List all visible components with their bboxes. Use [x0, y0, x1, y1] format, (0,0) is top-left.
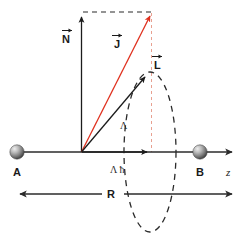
- vector-n-label-group: N: [62, 29, 72, 45]
- vector-diagram-figure: N J L Λ Λ ħ A B z R: [0, 0, 242, 243]
- vector-j-overarrow-head: [119, 34, 123, 38]
- atom-b-sphere: [193, 145, 207, 159]
- vector-j-label-group: J: [112, 34, 122, 50]
- atom-a-label: A: [13, 166, 21, 178]
- vector-n-overarrow-head: [69, 29, 73, 33]
- atom-b-label: B: [196, 166, 204, 178]
- vector-l-label-group: L: [152, 55, 162, 71]
- lambda-label: Λ: [120, 120, 128, 131]
- diagram-canvas: N J L Λ Λ ħ A B z R: [0, 0, 242, 243]
- z-axis-label: z: [225, 166, 231, 178]
- r-label: R: [107, 188, 115, 200]
- vector-l-overarrow-head: [159, 55, 163, 59]
- atom-a-sphere: [10, 145, 24, 159]
- vector-n-label: N: [62, 33, 70, 45]
- lambda-hbar-label: Λ ħ: [110, 164, 125, 175]
- vector-j-label: J: [114, 38, 120, 50]
- vector-l-label: L: [154, 59, 161, 71]
